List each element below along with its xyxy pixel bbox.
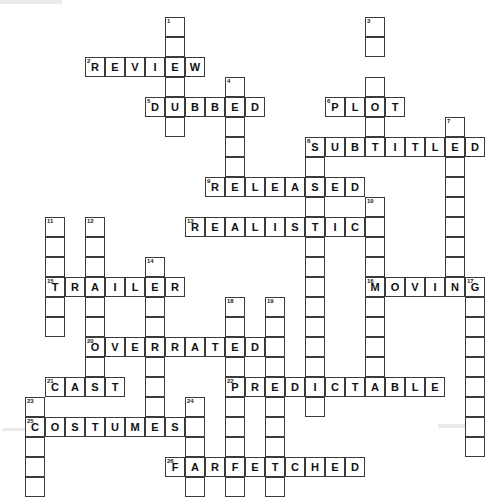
crossword-cell[interactable] (225, 477, 245, 497)
crossword-cell[interactable]: L (245, 177, 265, 197)
crossword-cell[interactable] (165, 37, 185, 57)
crossword-cell[interactable]: 6P (325, 97, 345, 117)
crossword-cell[interactable]: R (165, 337, 185, 357)
crossword-cell[interactable]: D (285, 377, 305, 397)
crossword-cell[interactable]: 25C (25, 417, 45, 437)
crossword-cell[interactable]: E (445, 137, 465, 157)
crossword-cell[interactable] (265, 337, 285, 357)
crossword-cell[interactable]: 21C (45, 377, 65, 397)
crossword-cell[interactable]: 24 (185, 397, 205, 417)
crossword-cell[interactable]: 19 (265, 297, 285, 317)
crossword-cell[interactable]: I (305, 377, 325, 397)
crossword-cell[interactable]: T (345, 377, 365, 397)
crossword-cell[interactable] (465, 317, 485, 337)
crossword-cell[interactable]: E (225, 97, 245, 117)
crossword-cell[interactable]: 11 (45, 217, 65, 237)
crossword-cell[interactable]: 9R (205, 177, 225, 197)
crossword-cell[interactable] (305, 257, 325, 277)
crossword-cell[interactable] (145, 377, 165, 397)
crossword-cell[interactable]: A (185, 457, 205, 477)
crossword-cell[interactable]: A (65, 377, 85, 397)
crossword-cell[interactable]: 22P (225, 377, 245, 397)
crossword-cell[interactable] (45, 237, 65, 257)
crossword-cell[interactable]: T (385, 97, 405, 117)
crossword-cell[interactable]: T (305, 217, 325, 237)
crossword-cell[interactable] (265, 317, 285, 337)
crossword-cell[interactable] (45, 297, 65, 317)
crossword-cell[interactable]: R (65, 277, 85, 297)
crossword-cell[interactable] (145, 297, 165, 317)
crossword-cell[interactable]: S (285, 217, 305, 237)
crossword-cell[interactable]: O (385, 277, 405, 297)
crossword-cell[interactable]: O (365, 97, 385, 117)
crossword-cell[interactable] (25, 457, 45, 477)
crossword-cell[interactable] (365, 317, 385, 337)
crossword-cell[interactable]: D (465, 137, 485, 157)
crossword-cell[interactable]: S (165, 417, 185, 437)
crossword-cell[interactable]: D (245, 337, 265, 357)
crossword-cell[interactable] (85, 297, 105, 317)
crossword-cell[interactable]: R (205, 457, 225, 477)
crossword-cell[interactable]: I (265, 217, 285, 237)
crossword-cell[interactable] (445, 157, 465, 177)
crossword-cell[interactable] (465, 417, 485, 437)
crossword-cell[interactable] (445, 177, 465, 197)
crossword-cell[interactable]: 15T (45, 277, 65, 297)
crossword-cell[interactable]: 7 (445, 117, 465, 137)
crossword-cell[interactable] (225, 117, 245, 137)
crossword-cell[interactable]: A (285, 177, 305, 197)
crossword-cell[interactable]: T (205, 337, 225, 357)
crossword-cell[interactable] (445, 197, 465, 217)
crossword-cell[interactable] (305, 237, 325, 257)
crossword-cell[interactable]: L (425, 137, 445, 157)
crossword-cell[interactable]: R (245, 377, 265, 397)
crossword-cell[interactable] (185, 417, 205, 437)
crossword-cell[interactable] (225, 317, 245, 337)
crossword-cell[interactable]: L (125, 277, 145, 297)
crossword-cell[interactable] (465, 437, 485, 457)
crossword-cell[interactable]: D (245, 97, 265, 117)
crossword-cell[interactable] (225, 437, 245, 457)
crossword-cell[interactable]: I (325, 217, 345, 237)
crossword-cell[interactable]: U (105, 417, 125, 437)
crossword-cell[interactable]: T (85, 417, 105, 437)
crossword-cell[interactable] (165, 77, 185, 97)
crossword-cell[interactable] (465, 357, 485, 377)
crossword-cell[interactable]: E (225, 337, 245, 357)
crossword-cell[interactable] (465, 377, 485, 397)
crossword-cell[interactable]: 18 (225, 297, 245, 317)
crossword-cell[interactable] (85, 257, 105, 277)
crossword-cell[interactable] (445, 237, 465, 257)
crossword-cell[interactable]: D (345, 457, 365, 477)
crossword-cell[interactable] (225, 137, 245, 157)
crossword-cell[interactable] (305, 357, 325, 377)
crossword-cell[interactable]: 17G (465, 277, 485, 297)
crossword-cell[interactable] (25, 437, 45, 457)
crossword-cell[interactable]: E (265, 377, 285, 397)
crossword-cell[interactable]: T (365, 137, 385, 157)
crossword-cell[interactable] (365, 117, 385, 137)
crossword-cell[interactable] (85, 237, 105, 257)
crossword-cell[interactable]: V (105, 337, 125, 357)
crossword-cell[interactable]: D (345, 177, 365, 197)
crossword-cell[interactable]: 14 (145, 257, 165, 277)
crossword-cell[interactable]: E (425, 377, 445, 397)
crossword-cell[interactable] (305, 297, 325, 317)
crossword-cell[interactable] (365, 337, 385, 357)
crossword-cell[interactable]: A (365, 377, 385, 397)
crossword-cell[interactable]: F (225, 457, 245, 477)
crossword-cell[interactable] (465, 337, 485, 357)
crossword-cell[interactable]: 12 (85, 217, 105, 237)
crossword-cell[interactable]: U (325, 137, 345, 157)
crossword-cell[interactable] (85, 317, 105, 337)
crossword-cell[interactable]: 13R (185, 217, 205, 237)
crossword-cell[interactable]: E (325, 177, 345, 197)
crossword-cell[interactable] (225, 397, 245, 417)
crossword-cell[interactable]: E (125, 337, 145, 357)
crossword-cell[interactable]: U (165, 97, 185, 117)
crossword-cell[interactable] (85, 357, 105, 377)
crossword-cell[interactable] (225, 157, 245, 177)
crossword-cell[interactable] (265, 357, 285, 377)
crossword-cell[interactable]: 16M (365, 277, 385, 297)
crossword-cell[interactable]: I (425, 277, 445, 297)
